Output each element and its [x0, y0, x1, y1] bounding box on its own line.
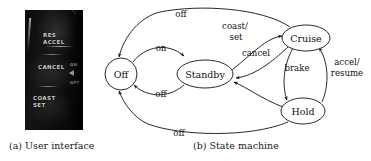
state-node-hold[interactable]: Hold: [281, 98, 325, 124]
edge-label-coast-line1: coast/: [222, 21, 248, 31]
edge-label-off-bottom: off: [173, 128, 185, 138]
edge-label-off-top: off: [175, 9, 187, 19]
state-label-off: Off: [114, 69, 130, 80]
state-node-standby[interactable]: Standby: [177, 60, 233, 88]
figure-cruise-control: RES ACCEL CANCEL COAST SET ON OFF (a) Us…: [0, 0, 371, 161]
edge-label-accel-line2: resume: [331, 68, 363, 78]
panel-state-machine: Off Standby Cruise Hold off on off coast…: [0, 0, 371, 161]
edge-label-cancel: cancel: [242, 48, 270, 58]
edge-hold-to-cruise: [319, 48, 327, 102]
state-machine-diagram: Off Standby Cruise Hold off on off coast…: [0, 0, 371, 161]
state-label-hold: Hold: [291, 106, 314, 117]
edge-label-off-middle: off: [155, 89, 167, 99]
edge-label-accel-line1: accel/: [334, 57, 360, 67]
edge-cruise-to-hold: [284, 48, 293, 100]
edge-label-coast-line2: set: [230, 32, 243, 42]
caption-panel-b: (b) State machine: [193, 140, 279, 151]
state-node-cruise[interactable]: Cruise: [282, 25, 330, 51]
state-label-standby: Standby: [185, 69, 225, 80]
edge-label-brake: brake: [284, 63, 309, 73]
edge-hold-to-standby: [234, 82, 283, 107]
state-node-off[interactable]: Off: [105, 58, 137, 90]
edge-label-on: on: [156, 43, 167, 53]
state-label-cruise: Cruise: [290, 33, 322, 44]
